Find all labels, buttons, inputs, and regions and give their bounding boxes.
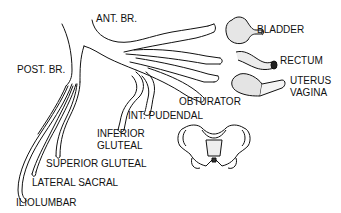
label-lateral-sacral: LATERAL SACRAL xyxy=(32,177,118,188)
label-anterior-branch: ANT. BR. xyxy=(96,13,137,24)
label-superior-gluteal: SUPERIOR GLUTEAL xyxy=(46,158,147,169)
label-iliolumbar: ILIOLUMBAR xyxy=(16,197,77,208)
label-inferior-gluteal: GLUTEAL xyxy=(97,140,143,151)
label-inferior: INFERIOR xyxy=(97,128,145,139)
diagram: ANT. BR. POST. BR. BLADDER RECTUM UTERUS… xyxy=(0,0,341,213)
label-uterus: UTERUS xyxy=(290,75,331,86)
label-posterior-branch: POST. BR. xyxy=(17,64,65,75)
label-obturator: OBTURATOR xyxy=(179,96,241,107)
label-rectum: RECTUM xyxy=(280,55,323,66)
label-vagina: VAGINA xyxy=(290,87,327,98)
label-bladder: BLADDER xyxy=(257,24,304,35)
label-int-pudendal: INT. PUDENDAL xyxy=(128,110,203,121)
